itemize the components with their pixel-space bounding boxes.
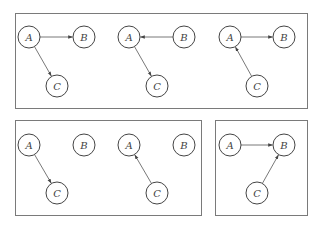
edge-c-to-a bbox=[236, 47, 252, 76]
node-b: B bbox=[173, 134, 195, 156]
bottom-left-panel bbox=[16, 121, 202, 216]
edge-c-to-a bbox=[135, 155, 152, 184]
node-label: A bbox=[225, 32, 233, 43]
edge-a-to-c bbox=[35, 155, 52, 184]
edge-a-to-c bbox=[35, 47, 52, 76]
node-b: B bbox=[273, 26, 295, 48]
node-label: B bbox=[279, 32, 287, 43]
node-label: B bbox=[79, 140, 87, 151]
node-a: A bbox=[118, 26, 140, 48]
node-c: C bbox=[246, 75, 268, 97]
node-label: C bbox=[53, 81, 61, 92]
node-label: A bbox=[124, 140, 132, 151]
node-label: A bbox=[225, 140, 233, 151]
node-b: B bbox=[73, 26, 95, 48]
node-a: A bbox=[118, 134, 140, 156]
node-a: A bbox=[18, 134, 40, 156]
node-label: C bbox=[53, 188, 61, 199]
edge-c-to-b bbox=[262, 155, 278, 183]
node-label: C bbox=[153, 188, 161, 199]
node-label: C bbox=[253, 81, 261, 92]
node-a: A bbox=[219, 134, 241, 156]
node-c: C bbox=[246, 182, 268, 204]
node-label: A bbox=[24, 32, 32, 43]
edge-a-to-c bbox=[135, 47, 152, 76]
causal-graphs-diagram: ABCABCABCABCABCABC bbox=[0, 0, 321, 227]
node-label: C bbox=[253, 188, 261, 199]
node-b: B bbox=[73, 134, 95, 156]
node-c: C bbox=[146, 75, 168, 97]
node-label: B bbox=[179, 32, 187, 43]
node-label: B bbox=[179, 140, 187, 151]
node-a: A bbox=[18, 26, 40, 48]
node-label: A bbox=[24, 140, 32, 151]
node-label: A bbox=[124, 32, 132, 43]
node-b: B bbox=[173, 26, 195, 48]
node-label: B bbox=[79, 32, 87, 43]
node-c: C bbox=[46, 75, 68, 97]
node-c: C bbox=[46, 182, 68, 204]
node-c: C bbox=[146, 182, 168, 204]
node-b: B bbox=[273, 134, 295, 156]
node-label: B bbox=[279, 140, 287, 151]
node-label: C bbox=[153, 81, 161, 92]
nodes: ABCABCABCABCABCABC bbox=[18, 26, 295, 204]
node-a: A bbox=[219, 26, 241, 48]
edges bbox=[35, 37, 279, 184]
